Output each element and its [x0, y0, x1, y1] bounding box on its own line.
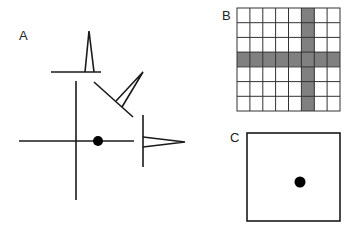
frame-dot [295, 177, 306, 188]
frame [247, 133, 340, 221]
panel-c [0, 0, 354, 236]
figure: A B C [0, 0, 354, 236]
